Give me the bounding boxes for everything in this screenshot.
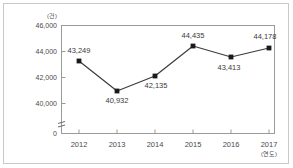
x-axis-ticks: [79, 130, 269, 134]
data-label-2013: 40,932: [106, 96, 129, 105]
y-tick-label-44000: 44,000: [36, 48, 58, 55]
x-axis-unit-label: (연도): [261, 150, 277, 157]
line-chart: (건) 46,000 44,000 42,000 40,000 0 43,249…: [0, 0, 293, 168]
data-point-2014: [153, 74, 158, 79]
y-tick-label-46000: 46,000: [36, 22, 58, 29]
data-label-2017: 44,178: [254, 32, 277, 41]
y-tick-label-0: 0: [53, 130, 57, 137]
y-tick-label-40000: 40,000: [36, 100, 58, 107]
data-point-2012: [77, 59, 82, 64]
y-axis-ticks: [62, 26, 66, 134]
x-tick-label-2013: 2013: [109, 140, 126, 149]
data-label-2014: 42,135: [145, 81, 168, 90]
x-tick-label-2017: 2017: [261, 140, 278, 149]
data-label-2012: 43,249: [68, 46, 91, 55]
data-point-2016: [229, 55, 234, 60]
data-point-2017: [267, 46, 272, 51]
x-tick-label-2015: 2015: [185, 140, 202, 149]
x-tick-label-2014: 2014: [147, 140, 164, 149]
y-axis-unit-label: (건): [47, 12, 57, 19]
data-point-2015: [191, 44, 196, 49]
data-point-markers: [77, 44, 272, 94]
data-series-line: [79, 46, 269, 91]
data-point-2013: [115, 89, 120, 94]
data-label-2016: 43,413: [218, 63, 241, 72]
plot-area-border: [62, 26, 275, 134]
x-tick-label-2012: 2012: [71, 140, 88, 149]
x-tick-label-2016: 2016: [223, 140, 240, 149]
y-tick-label-42000: 42,000: [36, 74, 58, 81]
chart-figure: (건) 46,000 44,000 42,000 40,000 0 43,249…: [0, 0, 293, 168]
data-label-2015: 44,435: [182, 31, 205, 40]
